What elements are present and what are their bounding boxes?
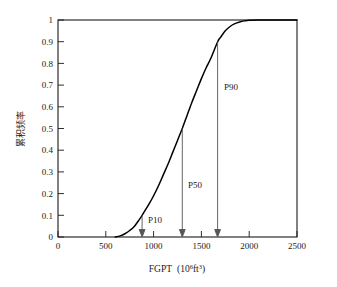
y-tick-label: 0.9 xyxy=(42,37,54,47)
y-axis-title-group: 累积频率 xyxy=(15,111,26,147)
x-axis-title-group: FGPT(106ft3) xyxy=(149,263,205,275)
y-tick-label: 0.5 xyxy=(42,124,54,134)
x-axis-unit-close: ) xyxy=(202,264,205,275)
x-tick-label: 1500 xyxy=(192,241,211,251)
x-axis-title: FGPT(106ft3) xyxy=(149,263,205,275)
x-tick-labels: 0 500 1000 1500 2000 2500 xyxy=(56,241,307,251)
y-tick-label: 1 xyxy=(49,15,54,25)
x-tick-label: 2000 xyxy=(240,241,259,251)
annotation-label-p10: P10 xyxy=(148,215,163,225)
y-tick-label: 0.1 xyxy=(42,211,53,221)
y-tick-labels: 0 0.1 0.2 0.3 0.4 0.5 0.6 0.7 0.8 0.9 1 xyxy=(42,15,54,242)
x-tick-label: 1000 xyxy=(145,241,164,251)
y-tick-label: 0 xyxy=(49,232,54,242)
cumulative-frequency-chart: 0 500 1000 1500 2000 2500 0 0.1 0.2 0.3 … xyxy=(0,0,337,287)
x-axis-title-name: FGPT xyxy=(149,264,172,274)
annotation-label-p90: P90 xyxy=(224,82,239,92)
x-tick-label: 0 xyxy=(56,241,61,251)
x-tick-label: 500 xyxy=(99,241,113,251)
y-tick-label: 0.4 xyxy=(42,145,54,155)
y-tick-label: 0.8 xyxy=(42,59,54,69)
chart-figure: 0 500 1000 1500 2000 2500 0 0.1 0.2 0.3 … xyxy=(0,0,337,287)
y-tick-label: 0.6 xyxy=(42,102,54,112)
annotation-label-p50: P50 xyxy=(188,180,203,190)
plot-frame xyxy=(58,20,297,237)
y-tick-label: 0.7 xyxy=(42,80,54,90)
x-tick-label: 2500 xyxy=(288,241,307,251)
x-axis-unit-open: (10 xyxy=(177,264,190,275)
y-tick-label: 0.3 xyxy=(42,167,54,177)
y-tick-label: 0.2 xyxy=(42,189,53,199)
y-axis-title: 累积频率 xyxy=(15,111,26,147)
